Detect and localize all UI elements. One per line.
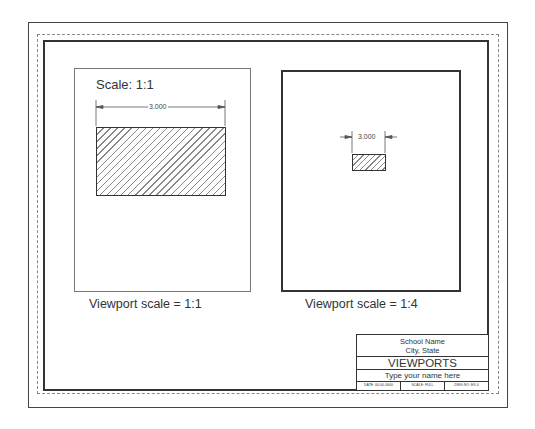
drawing-number-field: DWG NO: EX-0: [445, 382, 488, 390]
hatched-rectangle-right: [352, 154, 386, 171]
date-field: DATE: 00-00-0000: [357, 382, 401, 390]
title-block: School Name City, State VIEWPORTS Type y…: [356, 334, 489, 391]
student-name-field[interactable]: Type your name here: [357, 370, 488, 382]
drawing-title: VIEWPORTS: [357, 357, 488, 370]
title-block-info-row: DATE: 00-00-0000 SCALE: FULL DWG NO: EX-…: [357, 382, 488, 390]
viewport-right[interactable]: [281, 70, 461, 292]
school-name: School Name: [357, 337, 488, 346]
dimension-text-right: 3.000: [357, 133, 377, 140]
hatched-rectangle-left: [96, 127, 226, 196]
scale-field: SCALE: FULL: [401, 382, 445, 390]
title-block-school: School Name City, State: [357, 335, 488, 357]
dimension-text-left: 3.000: [148, 103, 168, 110]
city-state: City, State: [357, 346, 488, 355]
viewport-caption-left: Viewport scale = 1:1: [89, 297, 202, 311]
viewport-caption-right: Viewport scale = 1:4: [305, 297, 418, 311]
